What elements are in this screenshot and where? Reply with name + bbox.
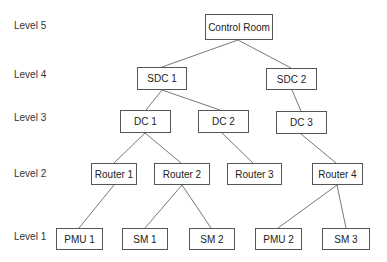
level-1-label: Level 1 <box>14 231 46 242</box>
node-router-3: Router 3 <box>227 163 282 185</box>
edge-control-room-sdc2 <box>238 40 291 68</box>
edge-router1-pmu1 <box>79 185 114 228</box>
edge-sdc1-dc1 <box>146 90 162 110</box>
edge-dc1-router2 <box>145 133 181 163</box>
node-router-4: Router 4 <box>312 163 363 185</box>
level-3-label: Level 3 <box>14 112 46 123</box>
node-router-1: Router 1 <box>91 163 137 185</box>
edge-dc1-router1 <box>114 133 145 163</box>
level-4-label: Level 4 <box>14 69 46 80</box>
node-dc-3: DC 3 <box>276 111 327 134</box>
node-pmu-1: PMU 1 <box>56 228 103 250</box>
node-sm-2: SM 2 <box>189 228 235 250</box>
node-sdc-2: SDC 2 <box>266 68 317 90</box>
edge-router4-sm3 <box>337 185 346 228</box>
node-dc-2: DC 2 <box>198 110 249 133</box>
node-sm-1: SM 1 <box>122 228 168 250</box>
level-5-label: Level 5 <box>14 20 46 31</box>
connection-lines <box>0 0 387 262</box>
node-sdc-1: SDC 1 <box>137 67 187 90</box>
level-2-label: Level 2 <box>14 168 46 179</box>
edge-dc3-router4 <box>301 134 336 163</box>
node-router-2: Router 2 <box>154 163 210 185</box>
node-pmu-2: PMU 2 <box>255 228 302 250</box>
edge-router4-pmu2 <box>278 185 337 228</box>
edge-control-room-sdc1 <box>162 40 238 67</box>
node-dc-1: DC 1 <box>120 110 171 133</box>
edge-sdc1-dc2 <box>162 90 220 110</box>
edge-router2-sm1 <box>145 185 182 228</box>
node-sm-3: SM 3 <box>322 228 370 250</box>
edge-router2-sm2 <box>182 185 211 228</box>
edge-dc2-router3 <box>222 133 253 163</box>
node-control-room: Control Room <box>205 14 273 40</box>
network-hierarchy-diagram: Level 5 Level 4 Level 3 Level 2 Level 1 … <box>0 0 387 262</box>
edge-sdc2-dc3 <box>292 90 301 111</box>
